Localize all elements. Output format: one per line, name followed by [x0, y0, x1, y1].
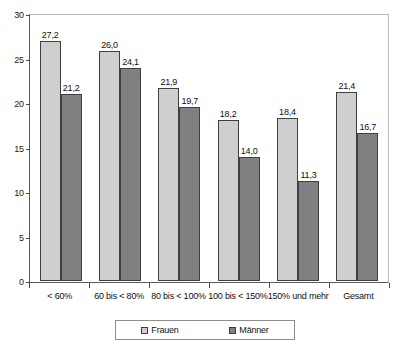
bar-maenner: 24,1 — [120, 68, 141, 281]
x-axis-category-labels: < 60%60 bis < 80%80 bis < 100%100 bis < … — [30, 291, 388, 301]
bar-groups: 27,221,226,024,121,919,718,214,018,411,3… — [31, 16, 387, 281]
bar-maenner: 14,0 — [239, 157, 260, 281]
bar-value-label: 21,9 — [160, 77, 177, 87]
bar-value-label: 26,0 — [101, 40, 118, 50]
legend-swatch-icon — [141, 327, 148, 334]
bar-group: 18,214,0 — [209, 16, 268, 281]
x-axis-ticks — [29, 283, 389, 288]
x-axis-category-label: Gesamt — [329, 291, 388, 301]
bar-value-label: 11,3 — [300, 170, 316, 180]
x-axis-category-label: 100 bis < 150% — [208, 291, 268, 301]
bar-value-label: 21,4 — [338, 81, 355, 91]
y-axis-tick-label: 20 — [14, 99, 30, 109]
bar-group: 21,919,7 — [150, 16, 209, 281]
bar-chart: 051015202530 27,221,226,024,121,919,718,… — [0, 0, 402, 347]
bar-frauen: 21,9 — [158, 88, 179, 281]
x-axis-category-label: 60 bis < 80% — [89, 291, 148, 301]
bar-value-label: 27,2 — [42, 30, 59, 40]
bar-value-label: 21,2 — [63, 83, 80, 93]
y-axis-tick-label: 15 — [14, 144, 30, 154]
x-axis-tick-mark — [89, 283, 90, 288]
legend-swatch-icon — [229, 327, 236, 334]
x-axis-tick-mark — [209, 283, 210, 288]
bar-group: 18,411,3 — [268, 16, 327, 281]
bar-value-label: 14,0 — [241, 146, 258, 156]
y-axis-tick-label: 10 — [14, 188, 30, 198]
bar-maenner: 16,7 — [357, 133, 378, 281]
bar-frauen: 18,2 — [218, 120, 239, 281]
bar-value-label: 16,7 — [359, 122, 376, 132]
bar-frauen: 26,0 — [99, 51, 120, 281]
chart-legend: Frauen Männer — [115, 320, 295, 340]
bar-frauen: 18,4 — [277, 118, 298, 281]
legend-item-maenner: Männer — [229, 325, 268, 335]
x-axis-tick-mark — [149, 283, 150, 288]
y-axis-tick-label: 5 — [19, 233, 30, 243]
legend-label: Frauen — [151, 325, 178, 335]
x-axis-category-label: < 60% — [30, 291, 89, 301]
bar-group: 27,221,2 — [31, 16, 90, 281]
legend-item-frauen: Frauen — [141, 325, 178, 335]
bar-value-label: 18,4 — [279, 107, 296, 117]
bar-frauen: 27,2 — [40, 41, 61, 281]
bar-value-label: 24,1 — [122, 57, 139, 67]
bar-maenner: 21,2 — [61, 94, 82, 281]
bar-group: 21,416,7 — [328, 16, 387, 281]
legend-label: Männer — [239, 325, 268, 335]
bar-value-label: 18,2 — [220, 109, 237, 119]
y-axis-tick-label: 25 — [14, 55, 30, 65]
plot-area: 051015202530 27,221,226,024,121,919,718,… — [29, 14, 389, 283]
x-axis-tick-mark — [389, 283, 390, 288]
y-axis-tick-label: 30 — [14, 10, 30, 20]
bar-frauen: 21,4 — [336, 92, 357, 281]
x-axis-tick-mark — [269, 283, 270, 288]
bar-maenner: 19,7 — [179, 107, 200, 281]
bar-group: 26,024,1 — [90, 16, 149, 281]
bar-maenner: 11,3 — [298, 181, 319, 281]
x-axis-tick-mark — [329, 283, 330, 288]
x-axis-category-label: 150% und mehr — [268, 291, 329, 301]
bar-value-label: 19,7 — [181, 96, 198, 106]
x-axis-tick-mark — [29, 283, 30, 288]
x-axis-category-label: 80 bis < 100% — [149, 291, 208, 301]
